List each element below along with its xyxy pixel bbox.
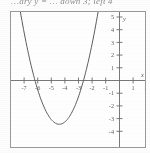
graph-figure: …ary y = … down 3; left 4 [0, 0, 150, 153]
x-tick-label: -1 [103, 84, 108, 91]
y-tick-label: 1 [111, 64, 114, 71]
header-text: …ary y = … down 3; left 4 [11, 0, 113, 6]
parabola-plot: -7 -6 -5 -4 -3 -2 -1 1 2 5 4 3 2 1 -1 -2… [11, 12, 145, 147]
x-tick-labels: -7 -6 -5 -4 -3 -2 -1 1 2 [22, 84, 145, 91]
y-tick-label: -4 [109, 128, 114, 135]
y-tick-label: -2 [109, 102, 114, 109]
x-tick-label: 2 [144, 84, 145, 91]
y-tick-label: 3 [111, 39, 114, 46]
y-tick-label: -1 [109, 89, 114, 96]
y-tick-labels: 5 4 3 2 1 -1 -2 -3 -4 [109, 13, 114, 134]
plot-frame: -7 -6 -5 -4 -3 -2 -1 1 2 5 4 3 2 1 -1 -2… [10, 11, 146, 148]
parabola-curve [19, 12, 101, 124]
y-tick-label: 4 [111, 26, 114, 33]
y-tick-label: 2 [111, 51, 114, 58]
y-axis-label: y [122, 15, 126, 22]
y-tick-label: -3 [109, 115, 114, 122]
x-axis-label: x [140, 71, 144, 78]
x-tick-label: 1 [132, 84, 135, 91]
x-tick-label: -7 [22, 84, 27, 91]
x-tick-label: -4 [62, 84, 67, 91]
x-tick-label: -2 [90, 84, 95, 91]
clipped-header-strip: …ary y = … down 3; left 4 [0, 0, 150, 9]
x-tick-label: -5 [49, 84, 54, 91]
y-tick-label: 5 [111, 13, 114, 20]
